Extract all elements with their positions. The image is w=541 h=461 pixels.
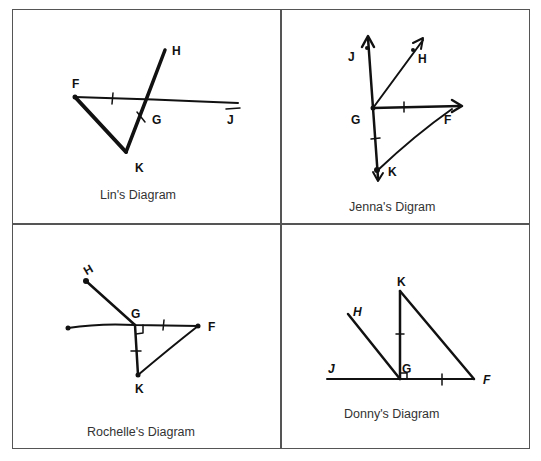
tick-mark xyxy=(112,93,113,104)
label-h: H xyxy=(353,305,362,319)
point-k xyxy=(136,373,141,378)
label-k: K xyxy=(388,165,397,179)
caption-jenna: Jenna's Digram xyxy=(349,200,435,214)
segment-gh xyxy=(86,281,135,325)
segment-gk xyxy=(135,325,138,375)
point-k xyxy=(374,167,380,173)
lin-diagram: F H G J K Lin's Diagram xyxy=(72,44,240,202)
caption-lin: Lin's Diagram xyxy=(100,188,176,202)
segment-fj xyxy=(75,97,238,103)
label-f: F xyxy=(72,77,79,91)
label-j: J xyxy=(328,362,335,376)
label-g: G xyxy=(402,362,411,376)
point-left-end xyxy=(66,326,71,331)
label-h: H xyxy=(418,52,427,66)
label-h: H xyxy=(81,262,96,278)
label-k: K xyxy=(135,161,144,175)
ray-gh xyxy=(373,40,423,108)
jenna-diagram: J H G F K Jenna's Digram xyxy=(348,36,462,214)
line-hk xyxy=(126,50,165,152)
ray-gf xyxy=(373,106,460,108)
point-f xyxy=(196,324,201,329)
segment-fk xyxy=(75,97,126,152)
point-g xyxy=(371,106,376,111)
donny-diagram: K H J G F Donny's Diagram xyxy=(327,275,491,421)
label-g: G xyxy=(152,113,161,127)
segment-fk xyxy=(378,109,452,170)
point-h xyxy=(83,278,89,284)
segment-fk xyxy=(138,326,198,375)
point-j xyxy=(365,46,369,50)
label-g: G xyxy=(131,307,140,321)
label-j: J xyxy=(227,113,234,127)
label-k: K xyxy=(397,275,406,289)
segment-gh xyxy=(348,314,400,379)
point-h xyxy=(411,48,415,52)
tick-mark xyxy=(163,320,164,330)
label-k: K xyxy=(135,382,144,396)
caption-rochelle: Rochelle's Diagram xyxy=(87,425,195,439)
label-f: F xyxy=(483,373,491,387)
bar-over-j xyxy=(226,108,240,109)
rochelle-diagram: H G F K Rochelle's Diagram xyxy=(66,262,216,439)
tick-mark xyxy=(371,138,380,139)
label-g: G xyxy=(351,113,360,127)
segment-through-g-to-f xyxy=(68,324,198,328)
label-f: F xyxy=(208,320,215,334)
diagrams-canvas: F H G J K Lin's Diagram J H G F K xyxy=(0,0,541,461)
point-f xyxy=(73,95,78,100)
right-angle-mark xyxy=(136,325,143,334)
caption-donny: Donny's Diagram xyxy=(344,407,439,421)
label-f: F xyxy=(444,113,451,127)
label-h: H xyxy=(172,44,181,58)
label-j: J xyxy=(348,50,355,64)
